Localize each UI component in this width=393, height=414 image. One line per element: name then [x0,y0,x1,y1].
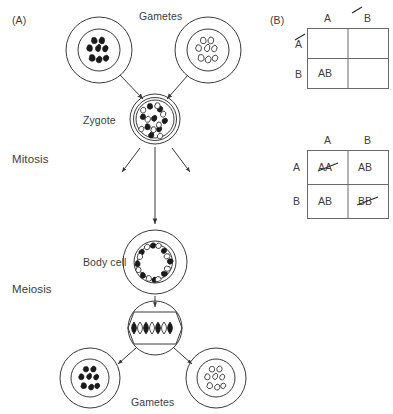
daughter-gamete-left-cell [60,348,120,408]
punnett-square-top-grid [308,29,389,89]
zygote-label: Zygote [83,114,116,126]
punnett-bottom-cell-1-1: BB [358,195,372,207]
meiotic-cell [128,301,182,355]
fertilization-arrow-right [167,75,188,99]
figure-canvas [0,0,393,414]
punnett-top-row-header-0: A [295,38,302,50]
punnett-bottom-row-header-1: B [293,195,300,207]
panel-a-label: (A) [12,14,26,26]
gamete-arrow-right [174,348,192,364]
meiosis-label: Meiosis [12,283,52,295]
gamete-arrow-left [118,348,136,364]
body-cell-label: Body cell [83,256,127,268]
paternal-gamete-cell [175,17,241,83]
punnett-bottom-col-header-1: B [364,134,371,146]
mitosis-arrow-left [122,148,140,172]
maternal-gamete-cell [66,17,132,83]
punnett-bottom-col-header-0: A [324,134,331,146]
mitosis-label: Mitosis [12,153,48,165]
mitosis-arrow-right [172,148,190,172]
figure-root: (A) Gametes Zygote Mitosis Body cell Mei… [0,0,393,414]
body-cell [123,230,187,294]
zygote-cell [130,94,180,144]
punnett-top-cell-1-0: AB [318,67,332,79]
top-gametes-label: Gametes [139,10,182,22]
fertilization-arrow-left [120,75,143,99]
punnett-bottom-cell-1-0: AB [318,195,332,207]
strike-top-col-B [352,7,362,13]
punnett-top-row-header-1: B [295,68,302,80]
panel-b-label: (B) [270,14,284,26]
punnett-bottom-row-header-0: A [293,161,300,173]
daughter-gamete-right-cell [186,348,246,408]
punnett-top-col-header-1: B [364,12,371,24]
punnett-bottom-cell-0-0: AA [318,161,332,173]
figure-caption-clipped [0,402,393,414]
punnett-top-col-header-0: A [324,12,331,24]
punnett-bottom-cell-0-1: AB [358,161,372,173]
